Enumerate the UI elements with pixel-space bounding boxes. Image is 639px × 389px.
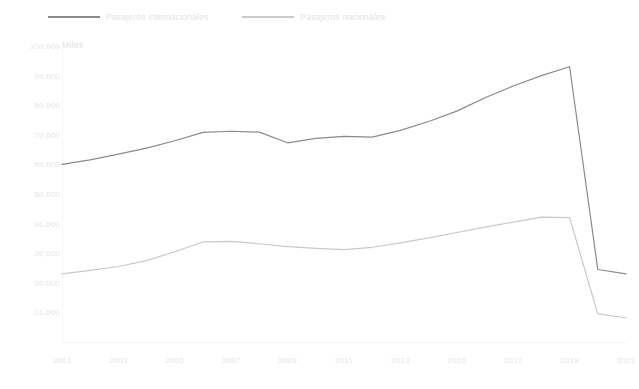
y-tick-label: 10,000 [34,308,60,317]
y-tick-label: 60,000 [34,160,60,169]
chart-container: Pasajeros internacionales Pasajeros naci… [0,0,639,389]
y-tick-label: 30,000 [34,249,60,258]
x-tick-label: 2019 [560,356,579,365]
x-tick-label: 2011 [335,356,353,365]
y-tick-label: 70,000 [34,130,60,139]
x-tick-label: 2007 [222,356,241,365]
legend-swatch-series-1 [242,16,294,18]
legend-label-series-1: Pasajeros nacionales [300,12,385,22]
chart-legend: Pasajeros internacionales Pasajeros naci… [48,9,385,25]
y-tick-label: 50,000 [34,190,60,199]
x-tick-label: 2015 [447,356,466,365]
x-tick-label: 2005 [165,356,184,365]
y-tick-label: 80,000 [34,101,60,110]
y-tick-label: 40,000 [34,219,60,228]
y-tick-label: 100,000 [30,42,60,51]
series-paths [62,67,626,318]
plot-svg [62,46,626,342]
y-axis: 100,00090,00080,00070,00060,00050,00040,… [10,46,60,342]
x-tick-label: 2003 [109,356,128,365]
y-tick-label: 20,000 [34,278,60,287]
x-tick-label: 2009 [278,356,297,365]
x-tick-label: 2017 [504,356,523,365]
plot-area [62,46,626,342]
legend-entry-series-0[interactable]: Pasajeros internacionales [48,12,208,22]
x-axis: 2001200320052007200920112013201520172019… [62,356,626,372]
legend-entry-series-1[interactable]: Pasajeros nacionales [242,12,385,22]
legend-swatch-series-0 [48,16,100,18]
series-line-0 [62,67,626,274]
x-tick-label: 2013 [391,356,410,365]
legend-label-series-0: Pasajeros internacionales [106,12,208,22]
x-tick-label: 2021 [617,356,636,365]
x-axis-line [62,342,626,343]
y-tick-label: 90,000 [34,71,60,80]
series-line-1 [62,217,626,318]
x-tick-label: 2001 [53,356,72,365]
